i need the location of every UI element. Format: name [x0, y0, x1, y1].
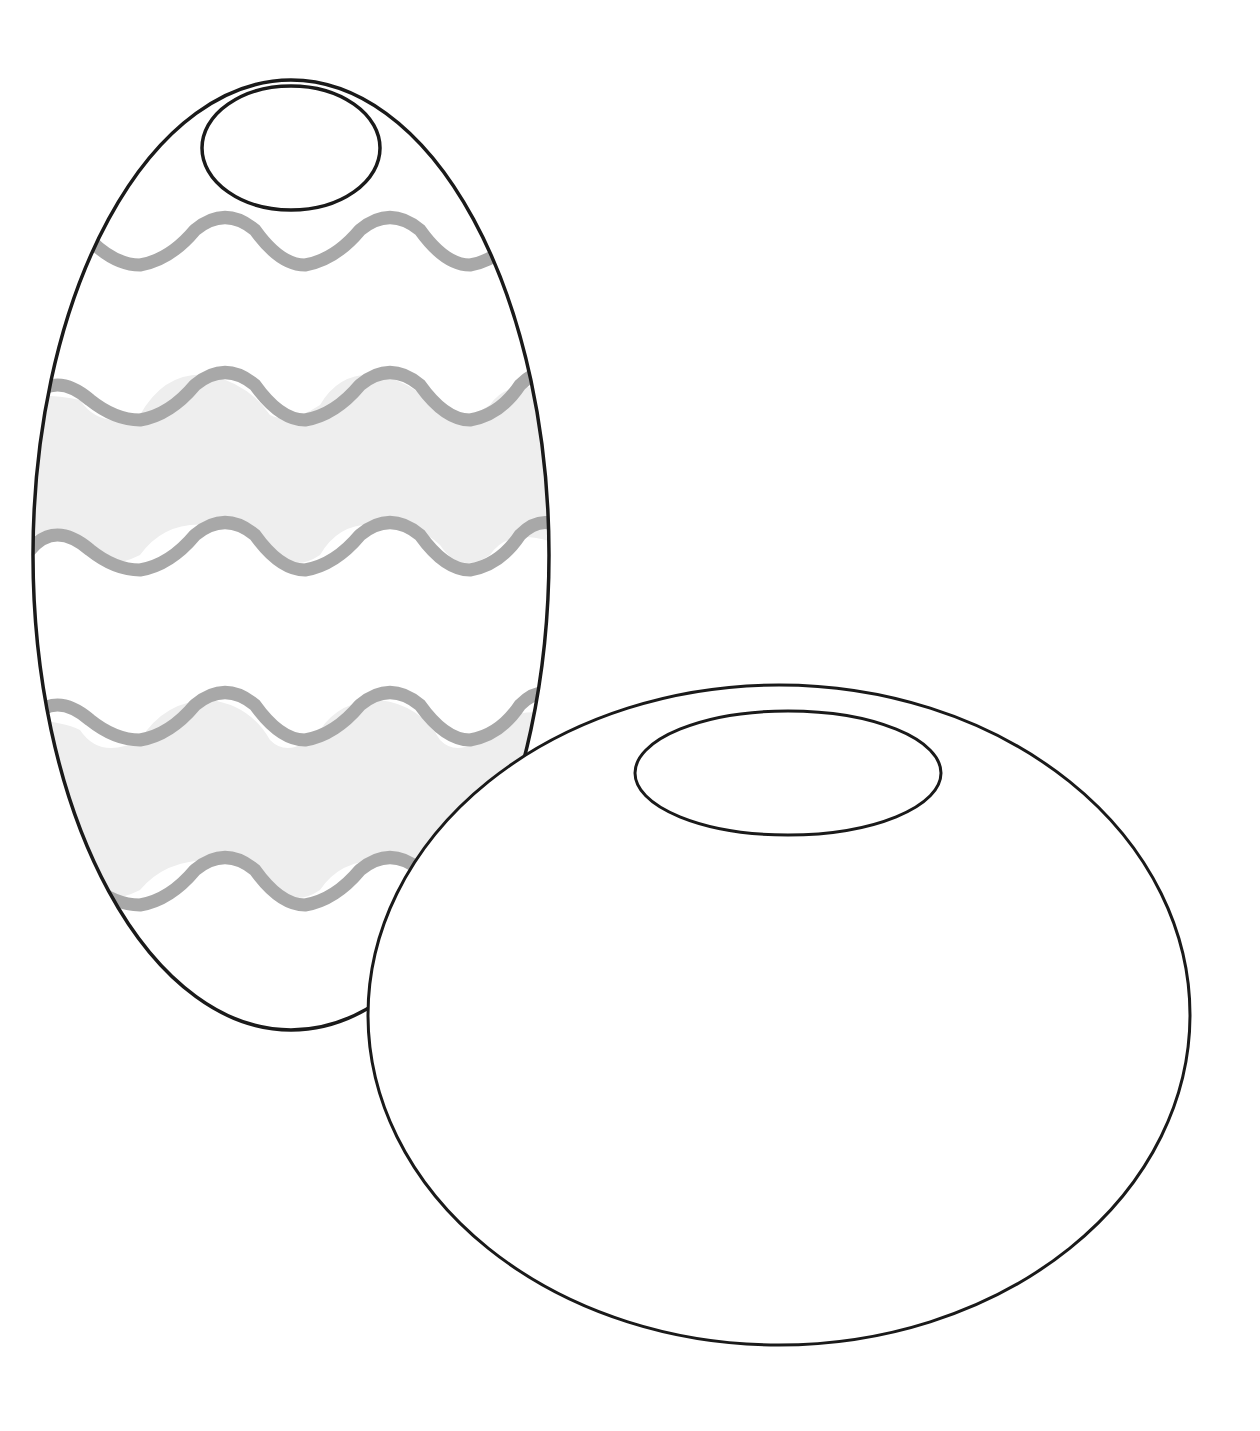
tall-egg-top-oval	[202, 86, 380, 210]
round-egg	[368, 685, 1190, 1345]
tall-egg	[20, 80, 570, 1030]
round-egg-outline	[368, 685, 1190, 1345]
coloring-page-artwork	[0, 0, 1260, 1431]
round-egg-top-oval	[635, 711, 941, 835]
shaded-band	[20, 374, 560, 898]
